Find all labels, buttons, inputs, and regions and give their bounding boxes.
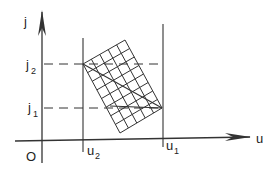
grid-line [88,49,130,73]
svg-text:1: 1 [33,109,38,119]
origin-label: O [26,149,36,164]
j2-label: j 2 [25,57,36,76]
svg-text:j: j [25,57,29,72]
svg-text:u: u [87,143,94,158]
u2-label: u 2 [87,143,100,161]
svg-text:2: 2 [31,66,36,76]
x-axis [15,137,250,141]
svg-text:1: 1 [174,146,179,156]
grid-line [111,91,153,116]
grid-line [106,83,148,108]
grid-line [92,57,134,81]
grid-line [83,40,125,64]
svg-text:u: u [166,138,173,153]
y-axis-label: j [23,14,27,29]
grid-line [120,108,162,133]
diagram-canvas: j u O j 2 j 1 u 2 u 1 [0,0,279,171]
x-axis-label: u [256,131,263,146]
grid-line [97,66,139,90]
u1-label: u 1 [166,138,179,156]
grid-line [115,100,157,125]
j1-label: j 1 [27,100,38,119]
svg-text:j: j [27,100,31,115]
svg-text:2: 2 [95,151,100,161]
